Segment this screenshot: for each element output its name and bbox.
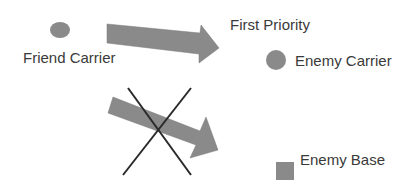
diagram-canvas: Friend Carrier First Priority Enemy Carr… (0, 0, 413, 194)
enemy-base-square-icon (276, 162, 294, 180)
enemy-carrier-circle-icon (266, 50, 286, 70)
enemy-base-label: Enemy Base (300, 152, 385, 167)
first-priority-label: First Priority (230, 17, 310, 32)
first-priority-arrow-icon (107, 24, 219, 63)
crossed-out-arrow-icon (108, 97, 218, 158)
enemy-carrier-label: Enemy Carrier (295, 53, 392, 68)
friend-carrier-circle-icon (50, 22, 70, 38)
friend-carrier-label: Friend Carrier (23, 50, 116, 65)
